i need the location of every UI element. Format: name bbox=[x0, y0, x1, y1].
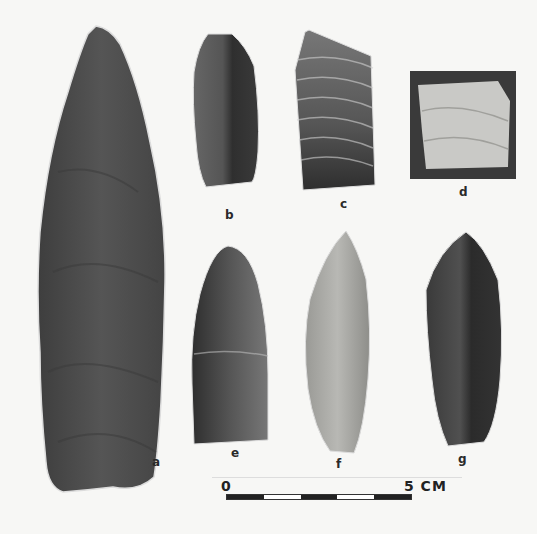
artifact-a bbox=[18, 22, 168, 500]
artifact-label-d: d bbox=[459, 186, 468, 198]
artifact-label-f: f bbox=[336, 458, 341, 470]
scale-segment bbox=[227, 495, 264, 499]
scale-start-label: 0 bbox=[221, 479, 232, 493]
artifact-label-c: c bbox=[340, 198, 347, 210]
scale-segment bbox=[264, 495, 301, 499]
artifact-label-e: e bbox=[231, 447, 239, 459]
artifact-label-g: g bbox=[458, 453, 467, 465]
artifact-c bbox=[295, 30, 380, 192]
scale-segment bbox=[337, 495, 374, 499]
artifact-d bbox=[410, 71, 516, 179]
scale-segment bbox=[301, 495, 338, 499]
artifact-label-a: a bbox=[152, 456, 160, 468]
artifact-f bbox=[300, 229, 372, 455]
artifact-label-b: b bbox=[225, 209, 234, 221]
scale-end-label: 5 CM bbox=[404, 479, 447, 493]
artifact-g bbox=[418, 230, 504, 448]
artifact-e bbox=[188, 244, 270, 446]
scale-bar bbox=[226, 494, 412, 500]
artifact-b bbox=[190, 32, 262, 192]
scale-segment bbox=[374, 495, 411, 499]
